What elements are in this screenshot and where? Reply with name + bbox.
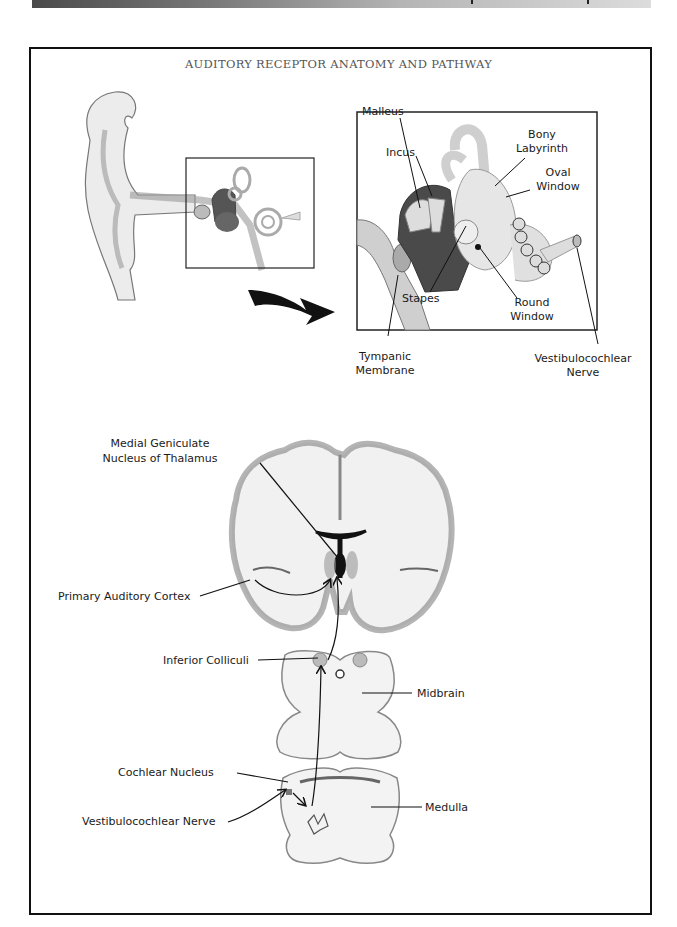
midbrain-section — [277, 651, 401, 759]
label-round-window-1: Round — [502, 296, 562, 310]
label-vestibulocochlear-nerve-ear-1: Vestibulocochlear — [528, 352, 638, 366]
label-bony-labyrinth-2: Labyrinth — [512, 142, 572, 156]
label-cochlear-nucleus: Cochlear Nucleus — [118, 766, 214, 780]
label-mgn-1: Medial Geniculate — [90, 437, 230, 451]
label-mgn-2: Nucleus of Thalamus — [90, 452, 230, 466]
label-round-window-2: Window — [502, 310, 562, 324]
label-stapes: Stapes — [402, 292, 440, 306]
medulla-section — [281, 768, 399, 863]
label-oval-window-2: Window — [528, 180, 588, 194]
magnify-arrow — [248, 290, 335, 325]
label-inferior-colliculi: Inferior Colliculi — [163, 654, 249, 668]
label-incus: Incus — [386, 146, 415, 160]
label-vestibulocochlear-nerve-ear-2: Nerve — [528, 366, 638, 380]
label-midbrain: Midbrain — [417, 687, 465, 701]
label-vestibulocochlear-nerve: Vestibulocochlear Nerve — [82, 815, 215, 829]
label-oval-window-1: Oval — [528, 166, 588, 180]
label-primary-auditory-cortex: Primary Auditory Cortex — [58, 590, 190, 604]
brain-coronal-section — [232, 443, 452, 630]
label-tympanic-membrane-1: Tympanic — [345, 350, 425, 364]
label-bony-labyrinth-1: Bony — [512, 128, 572, 142]
label-tympanic-membrane-2: Membrane — [345, 364, 425, 378]
label-malleus: Malleus — [362, 105, 404, 119]
label-medulla: Medulla — [425, 801, 468, 815]
